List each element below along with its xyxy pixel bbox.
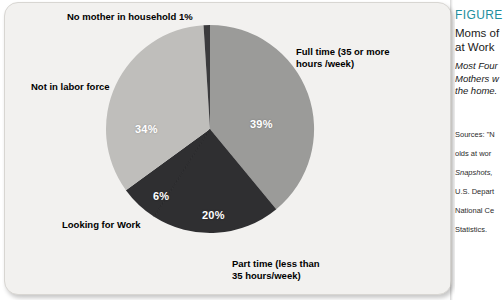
label-part-time: Part time (less than 35 hours/week) <box>232 258 320 282</box>
pie-chart: 39% 34% 20% 6% No mother in household 1%… <box>5 3 451 294</box>
figure-caption: Most Four Mothers w the home. <box>455 60 499 98</box>
figure-sources: Sources: "N olds at wor Snapshots, U.S. … <box>455 120 495 244</box>
slice-value-looking-for-work: 6% <box>153 190 169 202</box>
figure-title: Moms of at Work <box>455 26 499 54</box>
label-not-in-labor-force: Not in labor force <box>31 81 110 93</box>
figure-sidebar: FIGURE Moms of at Work Most Four Mothers… <box>455 0 504 300</box>
pie-graphic: 39% 34% 20% 6% <box>104 23 316 235</box>
sources-line-5: National Ce <box>455 206 495 216</box>
sources-line-6: Statistics. <box>455 225 495 235</box>
figure-screenshot: 39% 34% 20% 6% No mother in household 1%… <box>0 0 504 300</box>
label-full-time: Full time (35 or more hours /week) <box>296 46 389 70</box>
label-no-mother-in-household: No mother in household 1% <box>67 11 193 23</box>
slice-value-part-time: 20% <box>202 209 225 221</box>
sources-line-2: olds at wor <box>455 149 495 159</box>
slice-value-not-in-labor-force: 34% <box>135 123 158 135</box>
label-looking-for-work: Looking for Work <box>62 219 140 231</box>
figure-card: 39% 34% 20% 6% No mother in household 1%… <box>4 2 452 295</box>
sources-line-3: Snapshots, <box>455 168 495 178</box>
card-edge-shadow <box>450 0 453 300</box>
figure-kicker: FIGURE <box>455 8 503 22</box>
sources-line-1: Sources: "N <box>455 130 495 140</box>
slice-value-full-time: 39% <box>250 118 273 130</box>
sources-line-4: U.S. Depart <box>455 187 495 197</box>
